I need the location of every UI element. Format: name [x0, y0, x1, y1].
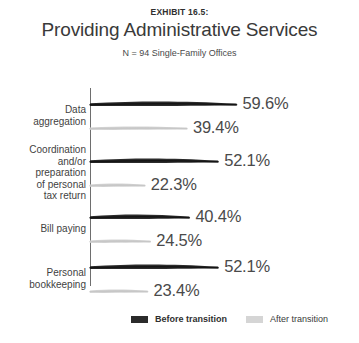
bar-before-transition — [90, 98, 237, 111]
bar-swatch-light-icon — [246, 316, 263, 323]
chart-page: EXHIBIT 16.5: Providing Administrative S… — [0, 0, 359, 343]
chart-legend: Before transition After transition — [0, 311, 359, 331]
value-label-after: 22.3% — [151, 175, 197, 194]
bar-before-transition — [90, 261, 218, 274]
category-label: Coordinationand/orpreparationof personal… — [0, 144, 86, 202]
bar-after-transition — [90, 179, 145, 192]
bar-after-transition — [90, 285, 148, 298]
value-label-after: 23.4% — [154, 281, 200, 300]
bar-after-transition — [90, 235, 150, 248]
value-label-after: 39.4% — [193, 118, 239, 137]
legend-label-before: Before transition — [155, 314, 227, 324]
bar-after-transition — [90, 122, 187, 135]
legend-label-after: After transition — [270, 314, 328, 324]
plot-area: Dataaggregation59.6%39.4%Coordinationand… — [0, 86, 359, 306]
page-title: Providing Administrative Services — [0, 19, 359, 41]
legend-item-after: After transition — [246, 314, 328, 324]
bar-before-transition — [90, 155, 218, 168]
category-label: Dataaggregation — [0, 104, 86, 127]
chart-subtitle: N = 94 Single-Family Offices — [0, 48, 359, 58]
value-label-before: 52.1% — [224, 151, 270, 170]
value-label-after: 24.5% — [156, 231, 202, 250]
category-label: Personalbookkeeping — [0, 267, 86, 290]
exhibit-label: EXHIBIT 16.5: — [0, 7, 359, 17]
bar-swatch-dark-icon — [131, 316, 148, 323]
value-label-before: 59.6% — [243, 94, 289, 113]
legend-item-before: Before transition — [131, 314, 227, 324]
category-label: Bill paying — [0, 223, 86, 235]
bar-before-transition — [90, 211, 189, 224]
value-label-before: 40.4% — [195, 207, 241, 226]
value-label-before: 52.1% — [224, 257, 270, 276]
